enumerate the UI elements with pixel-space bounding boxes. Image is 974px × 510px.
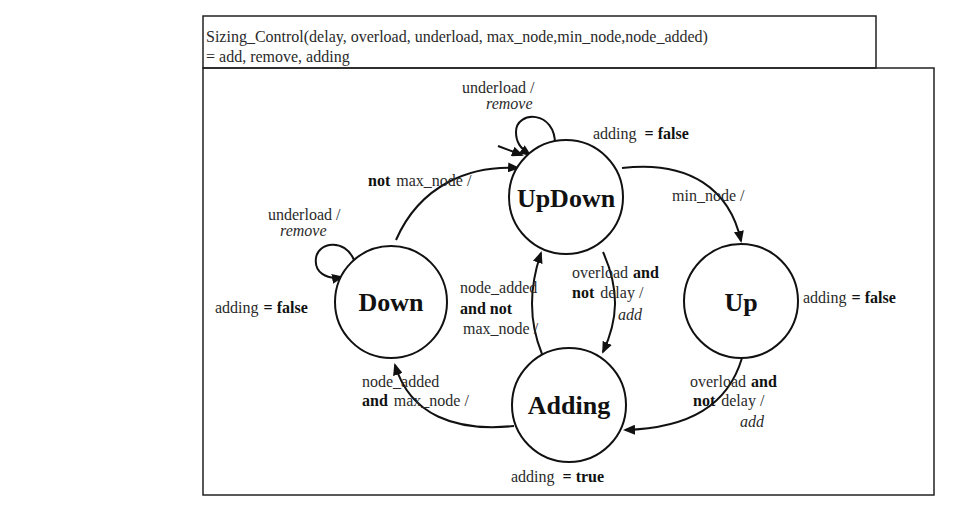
svg-text:remove: remove bbox=[280, 222, 327, 239]
edge-initial bbox=[498, 146, 522, 155]
updown-output: adding=false bbox=[593, 125, 689, 143]
edge-adding-to-updown bbox=[532, 253, 542, 354]
signature-line-2: = add, remove, adding bbox=[206, 48, 350, 66]
svg-text:add: add bbox=[740, 413, 765, 430]
label-adding-to-updown: node_added and not max_node / bbox=[460, 279, 539, 337]
svg-text:node_added: node_added bbox=[460, 279, 537, 296]
label-updown-to-up: min_node / bbox=[672, 187, 745, 204]
state-diagram: Sizing_Control(delay, overload, underloa… bbox=[0, 0, 974, 510]
state-updown-label: UpDown bbox=[517, 184, 616, 213]
svg-text:underload /: underload / bbox=[462, 79, 535, 96]
state-up-label: Up bbox=[724, 288, 757, 317]
svg-text:notdelay /: notdelay / bbox=[693, 392, 765, 410]
svg-text:andmax_node /: andmax_node / bbox=[362, 392, 469, 409]
svg-text:and not: and not bbox=[460, 300, 513, 317]
svg-text:add: add bbox=[618, 306, 643, 323]
svg-text:notdelay /: notdelay / bbox=[572, 284, 644, 302]
state-down[interactable]: Down bbox=[335, 246, 447, 358]
label-updown-self: underload / remove bbox=[462, 79, 535, 112]
svg-text:overloadand: overloadand bbox=[572, 264, 659, 281]
label-down-to-updown: notmax_node / bbox=[368, 172, 472, 189]
up-output: adding=false bbox=[803, 289, 896, 307]
state-down-label: Down bbox=[358, 288, 424, 317]
label-adding-to-down: node_added andmax_node / bbox=[362, 373, 469, 409]
signature-line-1: Sizing_Control(delay, overload, underloa… bbox=[206, 28, 708, 46]
adding-output: adding=true bbox=[511, 468, 604, 486]
svg-text:max_node /: max_node / bbox=[463, 320, 539, 337]
down-output: adding=false bbox=[215, 299, 308, 317]
state-adding[interactable]: Adding bbox=[512, 348, 626, 462]
signature-box: Sizing_Control(delay, overload, underloa… bbox=[203, 16, 876, 68]
state-updown[interactable]: UpDown bbox=[509, 140, 623, 254]
label-up-to-adding: overloadand notdelay / add bbox=[690, 373, 777, 430]
label-updown-to-adding: overloadand notdelay / add bbox=[572, 264, 659, 323]
state-up[interactable]: Up bbox=[684, 244, 798, 358]
svg-text:remove: remove bbox=[486, 95, 533, 112]
label-down-self: underload / remove bbox=[268, 206, 341, 239]
svg-text:node_added: node_added bbox=[362, 373, 439, 390]
state-adding-label: Adding bbox=[528, 391, 610, 420]
svg-text:underload /: underload / bbox=[268, 206, 341, 223]
svg-text:overloadand: overloadand bbox=[690, 373, 777, 390]
